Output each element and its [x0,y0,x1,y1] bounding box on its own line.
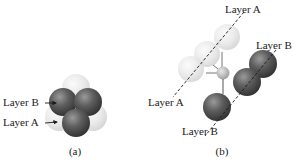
label-layer-a-top: Layer A [225,3,261,15]
caption-a: (a) [69,145,82,158]
label-layer-b-bottom: Layer B [182,125,218,137]
bond-stick [213,65,218,69]
layer-b-sphere [62,109,90,137]
layer-b-sphere [203,93,231,121]
close-packed-layers-diagram: Layer B Layer A (a) Layer A Layer B Laye… [0,0,302,160]
layer-a-sphere [214,24,240,50]
label-layer-a-left: Layer A [148,96,184,108]
layer-a-sphere [178,56,204,82]
label-layer-a: Layer A [3,116,39,128]
center-sphere [217,67,230,80]
label-layer-b-right: Layer B [256,39,292,51]
panel-a: Layer B Layer A (a) [3,74,107,158]
layer-b-sphere [233,68,261,96]
panel-b: Layer A Layer B Layer A Layer B (b) [148,3,292,158]
caption-b: (b) [216,145,229,158]
label-layer-b: Layer B [3,96,39,108]
